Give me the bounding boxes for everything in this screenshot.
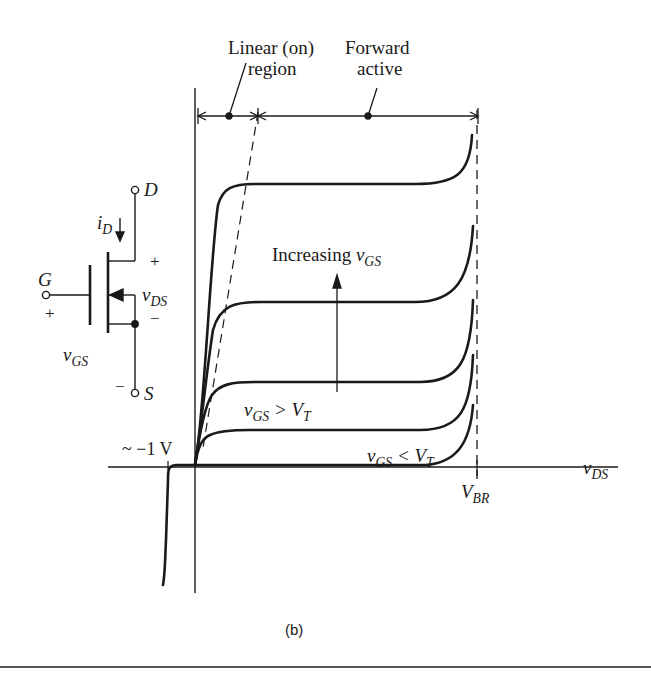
characteristic-curves — [163, 135, 473, 585]
body-arrow — [110, 289, 123, 301]
vgs-sub: GS — [71, 354, 88, 369]
region-dimension-line — [198, 63, 478, 124]
drain-terminal — [131, 186, 138, 193]
forward-leader — [368, 88, 377, 116]
vds-sub: DS — [150, 294, 167, 309]
linear-region-label-1: Linear (on) — [228, 38, 314, 57]
vgs-below-vt-label: vGS < VT — [367, 446, 434, 469]
linear-region-label-2: region — [248, 59, 297, 78]
increasing-sub: GS — [364, 254, 381, 269]
breakdown-voltage-label: VBR — [461, 482, 489, 505]
below-vt-sub2: T — [426, 455, 434, 470]
x-axis-sub: DS — [591, 467, 608, 482]
curve-reverse — [163, 465, 195, 585]
breakdown-sub: BR — [473, 491, 490, 506]
curve-vgs-2 — [195, 300, 473, 465]
bottom-rule — [0, 666, 651, 668]
increasing-vgs-arrow — [333, 275, 341, 392]
vgs-label: vGS — [63, 345, 88, 368]
forward-active-label-1: Forward — [345, 38, 409, 57]
vds-label: vDS — [142, 285, 167, 308]
source-label: S — [144, 384, 154, 403]
above-vt-sub: GS — [252, 409, 269, 424]
breakdown-var: V — [461, 481, 473, 502]
vgs-minus: − — [115, 378, 125, 395]
mosfet-symbol — [42, 186, 138, 396]
vgs-plus: + — [45, 305, 55, 322]
increasing-text: Increasing — [272, 244, 351, 265]
vgs-above-vt-label: vGS > VT — [244, 400, 311, 423]
below-vt-op: < V — [392, 445, 426, 466]
above-vt-sub2: T — [303, 409, 311, 424]
figure-caption: (b) — [285, 622, 303, 637]
gate-label: G — [38, 270, 52, 289]
mosfet-characteristics-figure — [0, 0, 651, 678]
source-terminal — [131, 389, 138, 396]
linear-leader — [229, 63, 246, 116]
above-vt-op: > V — [269, 399, 303, 420]
x-axis-label: vDS — [583, 458, 608, 481]
vds-plus: + — [150, 253, 160, 270]
gate-terminal — [42, 291, 49, 298]
below-vt-sub: GS — [375, 455, 392, 470]
forward-active-label-2: active — [357, 59, 402, 78]
increasing-vgs-label: Increasing vGS — [272, 245, 381, 268]
reverse-voltage-label: ~ −1 V — [122, 440, 173, 458]
axes — [108, 88, 618, 593]
drain-label: D — [144, 180, 158, 199]
current-label: iD — [97, 213, 112, 236]
current-sub: D — [102, 222, 112, 237]
vds-minus: − — [150, 310, 160, 327]
